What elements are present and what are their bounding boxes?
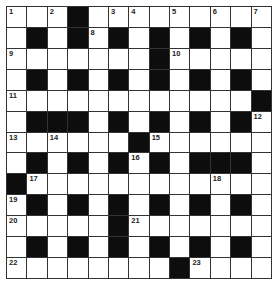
grid-cell[interactable] (190, 133, 209, 153)
grid-cell[interactable] (89, 49, 108, 69)
grid-cell[interactable] (109, 133, 128, 153)
grid-cell[interactable] (7, 28, 26, 48)
grid-cell[interactable] (252, 258, 271, 278)
grid-cell[interactable] (89, 70, 108, 90)
grid-cell[interactable]: 12 (252, 112, 271, 132)
grid-cell[interactable] (27, 216, 46, 236)
grid-cell[interactable] (48, 195, 67, 215)
grid-cell[interactable] (129, 70, 148, 90)
grid-cell[interactable] (231, 49, 250, 69)
grid-cell[interactable] (7, 153, 26, 173)
grid-cell[interactable] (211, 70, 230, 90)
grid-cell[interactable]: 10 (170, 49, 189, 69)
grid-cell[interactable] (89, 133, 108, 153)
grid-cell[interactable]: 17 (27, 174, 46, 194)
grid-cell[interactable] (211, 258, 230, 278)
grid-cell[interactable] (231, 258, 250, 278)
grid-cell[interactable] (252, 237, 271, 257)
grid-cell[interactable] (190, 174, 209, 194)
grid-cell[interactable] (190, 49, 209, 69)
grid-cell[interactable]: 22 (7, 258, 26, 278)
grid-cell[interactable]: 15 (150, 133, 169, 153)
grid-cell[interactable] (89, 195, 108, 215)
grid-cell[interactable] (48, 70, 67, 90)
grid-cell[interactable] (231, 7, 250, 27)
grid-cell[interactable] (109, 49, 128, 69)
grid-cell[interactable] (150, 258, 169, 278)
grid-cell[interactable] (68, 216, 87, 236)
grid-cell[interactable] (48, 258, 67, 278)
grid-cell[interactable] (211, 28, 230, 48)
grid-cell[interactable] (129, 49, 148, 69)
grid-cell[interactable] (170, 133, 189, 153)
grid-cell[interactable] (231, 133, 250, 153)
grid-cell[interactable] (48, 28, 67, 48)
grid-cell[interactable]: 19 (7, 195, 26, 215)
grid-cell[interactable] (211, 237, 230, 257)
grid-cell[interactable] (190, 216, 209, 236)
grid-cell[interactable] (252, 174, 271, 194)
grid-cell[interactable] (89, 7, 108, 27)
grid-cell[interactable] (170, 28, 189, 48)
grid-cell[interactable] (211, 112, 230, 132)
grid-cell[interactable] (252, 70, 271, 90)
grid-cell[interactable]: 1 (7, 7, 26, 27)
grid-cell[interactable]: 5 (170, 7, 189, 27)
grid-cell[interactable] (170, 153, 189, 173)
grid-cell[interactable] (150, 216, 169, 236)
grid-cell[interactable] (129, 195, 148, 215)
grid-cell[interactable] (89, 237, 108, 257)
grid-cell[interactable] (170, 112, 189, 132)
grid-cell[interactable]: 2 (48, 7, 67, 27)
grid-cell[interactable] (27, 133, 46, 153)
grid-cell[interactable] (89, 216, 108, 236)
grid-cell[interactable] (27, 49, 46, 69)
grid-cell[interactable] (27, 7, 46, 27)
grid-cell[interactable] (170, 195, 189, 215)
grid-cell[interactable] (68, 258, 87, 278)
grid-cell[interactable]: 7 (252, 7, 271, 27)
grid-cell[interactable]: 4 (129, 7, 148, 27)
grid-cell[interactable]: 23 (190, 258, 209, 278)
grid-cell[interactable] (150, 7, 169, 27)
grid-cell[interactable] (190, 91, 209, 111)
grid-cell[interactable] (129, 237, 148, 257)
grid-cell[interactable] (129, 258, 148, 278)
grid-cell[interactable]: 3 (109, 7, 128, 27)
grid-cell[interactable] (89, 174, 108, 194)
grid-cell[interactable] (231, 174, 250, 194)
grid-cell[interactable] (7, 70, 26, 90)
grid-cell[interactable] (89, 258, 108, 278)
grid-cell[interactable] (7, 112, 26, 132)
grid-cell[interactable] (109, 258, 128, 278)
grid-cell[interactable] (48, 216, 67, 236)
grid-cell[interactable] (129, 174, 148, 194)
grid-cell[interactable] (170, 237, 189, 257)
grid-cell[interactable] (252, 195, 271, 215)
grid-cell[interactable] (150, 91, 169, 111)
grid-cell[interactable] (48, 237, 67, 257)
grid-cell[interactable] (68, 91, 87, 111)
grid-cell[interactable] (252, 49, 271, 69)
grid-cell[interactable] (48, 49, 67, 69)
grid-cell[interactable] (89, 91, 108, 111)
grid-cell[interactable] (170, 70, 189, 90)
grid-cell[interactable] (68, 49, 87, 69)
grid-cell[interactable]: 8 (89, 28, 108, 48)
grid-cell[interactable]: 14 (48, 133, 67, 153)
grid-cell[interactable] (68, 174, 87, 194)
grid-cell[interactable] (170, 91, 189, 111)
grid-cell[interactable] (211, 133, 230, 153)
grid-cell[interactable] (252, 153, 271, 173)
grid-cell[interactable] (211, 49, 230, 69)
grid-cell[interactable] (109, 91, 128, 111)
grid-cell[interactable] (129, 91, 148, 111)
grid-cell[interactable] (129, 112, 148, 132)
grid-cell[interactable] (211, 195, 230, 215)
grid-cell[interactable] (129, 28, 148, 48)
grid-cell[interactable] (231, 216, 250, 236)
grid-cell[interactable]: 6 (211, 7, 230, 27)
grid-cell[interactable] (211, 91, 230, 111)
grid-cell[interactable] (7, 237, 26, 257)
grid-cell[interactable] (190, 7, 209, 27)
